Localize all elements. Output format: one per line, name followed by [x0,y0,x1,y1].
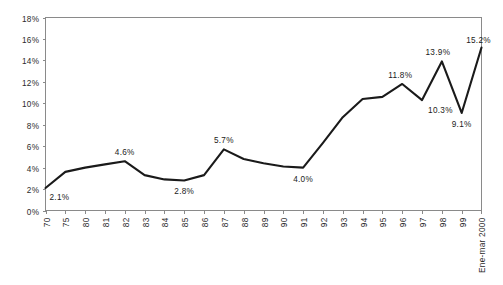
y-tick-label: 0% [27,208,40,217]
y-tick-label: 8% [27,122,40,131]
x-tick-label: 83 [142,217,151,227]
line-chart: 0%2%4%6%8%10%12%14%16%18% 70758081828384… [0,0,503,285]
data-point-labels: 2.1%4.6%2.8%5.7%4.0%11.8%10.3%13.9%9.1%1… [50,36,491,202]
series-line [46,48,482,188]
y-tick-label: 10% [22,100,40,109]
x-tick-label: 97 [419,217,428,227]
x-tick-label: 93 [340,217,349,227]
plot-border [46,18,482,211]
x-tick-label: 86 [201,217,210,227]
y-tick-label: 4% [27,165,40,174]
x-tick-label: Ene-mar 2000 [478,217,487,273]
data-point-label: 2.8% [174,187,194,196]
x-tick-label: 92 [320,217,329,227]
x-tick-label: 95 [379,217,388,227]
data-series [46,48,482,188]
x-tick-label: 75 [62,217,71,227]
data-point-label: 10.3% [428,106,453,115]
x-axis-labels: 7075808182838485868788899091929394959697… [43,217,487,273]
data-point-label: 4.0% [293,175,313,184]
x-tick-label: 90 [280,217,289,227]
y-tick-label: 12% [22,79,40,88]
data-point-label: 15.2% [466,36,491,45]
x-tick-label: 89 [261,217,270,227]
y-tick-label: 6% [27,143,40,152]
x-tick-label: 98 [439,217,448,227]
x-tick-label: 81 [102,217,111,227]
y-tick-label: 16% [22,36,40,45]
x-tick-label: 85 [181,217,190,227]
x-tick-label: 88 [241,217,250,227]
x-tick-label: 80 [82,217,91,227]
data-point-label: 9.1% [452,120,472,129]
y-tick-label: 14% [22,57,40,66]
x-tick-label: 96 [399,217,408,227]
y-axis-labels: 0%2%4%6%8%10%12%14%16%18% [22,15,40,217]
y-tick-label: 18% [22,15,40,24]
data-point-label: 4.6% [115,148,135,157]
y-tick-label: 2% [27,186,40,195]
chart-canvas: 0%2%4%6%8%10%12%14%16%18% 70758081828384… [0,0,503,285]
data-point-label: 5.7% [214,136,234,145]
x-tick-label: 84 [161,217,170,227]
data-point-label: 11.8% [388,71,412,80]
data-point-label: 13.9% [426,48,451,57]
x-tick-label: 82 [122,217,131,227]
x-tick-label: 94 [360,217,369,227]
data-point-label: 2.1% [50,193,70,202]
plot-frame [46,18,482,211]
x-tick-label: 99 [459,217,468,227]
x-tick-label: 87 [221,217,230,227]
x-tick-label: 91 [300,217,309,227]
x-tick-label: 70 [43,217,52,227]
